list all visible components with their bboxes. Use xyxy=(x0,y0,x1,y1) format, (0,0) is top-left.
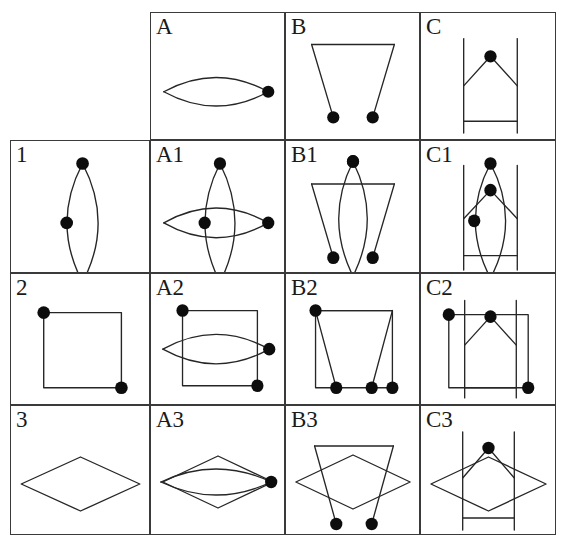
cell-label-A: A xyxy=(156,13,173,40)
trapezoid-right-foot-dot xyxy=(367,251,379,264)
lens-top-vertex-dot xyxy=(347,155,359,168)
square-outline xyxy=(183,311,258,386)
lens-vertical-right-arc xyxy=(220,164,235,272)
lens-horizontal-upper-arc xyxy=(164,208,268,223)
figure-group-1 xyxy=(60,157,98,272)
square-outline xyxy=(449,315,528,388)
figure-group-C xyxy=(464,39,518,134)
cell-label-2: 2 xyxy=(16,274,28,301)
lens-vertical-left-arc xyxy=(205,164,220,272)
cell-label-C1: C1 xyxy=(426,141,453,168)
matrix-cell-C: C xyxy=(420,12,556,140)
rails-apex-dot xyxy=(484,50,496,62)
figure-group-B2 xyxy=(309,304,398,394)
rails-apex-dot xyxy=(484,184,496,197)
lens-right-vertex-dot xyxy=(265,476,277,488)
lens-vertical-right-arc xyxy=(353,161,367,272)
trapezoid-left-foot-dot xyxy=(330,518,342,530)
lens-right-vertex-dot xyxy=(262,217,274,230)
figure-group-A1 xyxy=(164,157,275,272)
matrix-cell-C3: C3 xyxy=(420,405,556,535)
figure-group-B3 xyxy=(296,446,410,530)
lens-top-vertex-dot xyxy=(347,155,359,168)
lens-vertical-left-arc xyxy=(67,164,83,272)
matrix-cell-A3: A3 xyxy=(150,405,285,535)
matrix-cell-B1: B1 xyxy=(285,140,420,273)
trapezoid-right-leg xyxy=(372,446,394,524)
square-bottom-right-dot xyxy=(386,381,398,394)
trapezoid-left-leg xyxy=(315,446,337,524)
matrix-cell-2: 2 xyxy=(10,273,150,405)
matrix-cell-3: 3 xyxy=(10,405,150,535)
figure-group-B1 xyxy=(312,155,395,272)
lens-right-vertex-dot xyxy=(262,86,274,98)
trapezoid-right-foot-dot xyxy=(366,381,378,394)
trapezoid-left-foot-dot xyxy=(327,111,339,123)
trapezoid-right-leg xyxy=(372,311,393,388)
trapezoid-right-foot-dot xyxy=(366,518,378,530)
figure-group-A2 xyxy=(163,304,276,392)
lens-vertical-right-arc xyxy=(490,164,505,272)
square-top-left-dot xyxy=(309,304,321,317)
matrix-diagram: ABC1A1B1C12A2B2C23A3B3C3 xyxy=(0,0,571,541)
lens-horizontal-lower-arc xyxy=(164,223,268,238)
square-bottom-right-dot xyxy=(522,381,534,394)
matrix-cell-B2: B2 xyxy=(285,273,420,405)
figure-group-A3 xyxy=(161,456,277,508)
cell-label-B3: B3 xyxy=(291,406,318,433)
trapezoid-right-leg xyxy=(373,184,395,258)
square-top-left-dot xyxy=(176,304,188,317)
trapezoid-left-leg xyxy=(316,311,337,388)
cell-label-B: B xyxy=(291,13,306,40)
lens-top-vertex-dot xyxy=(484,157,496,170)
figure-group-C1 xyxy=(464,157,518,272)
cell-label-C2: C2 xyxy=(426,274,453,301)
rails-apex-dot xyxy=(484,310,496,323)
matrix-cell-C2: C2 xyxy=(420,273,556,405)
lens-horizontal-lower-arc xyxy=(161,482,271,495)
rhombus-outline xyxy=(296,455,410,509)
matrix-cell-1: 1 xyxy=(10,140,150,273)
trapezoid-left-leg xyxy=(312,184,334,258)
cell-label-A3: A3 xyxy=(156,406,184,433)
cell-label-C: C xyxy=(426,13,441,40)
cell-label-A2: A2 xyxy=(156,274,184,301)
trapezoid-left-foot-dot xyxy=(330,381,342,394)
square-outline xyxy=(44,313,122,388)
lens-vertical-left-arc xyxy=(475,164,490,272)
cell-label-3: 3 xyxy=(16,406,28,433)
lens-left-arc-dot xyxy=(60,217,73,230)
matrix-cell-B: B xyxy=(285,12,420,140)
rhombus-outline xyxy=(163,456,273,508)
lens-right-vertex-dot xyxy=(263,343,275,356)
matrix-cell-B3: B3 xyxy=(285,405,420,535)
rails-peak-chevron xyxy=(465,317,517,345)
lens-horizontal-lower-arc xyxy=(164,92,268,106)
square-outline xyxy=(316,311,393,388)
lens-left-arc-dot xyxy=(468,214,480,227)
square-bottom-right-dot xyxy=(115,381,128,394)
matrix-cell-A1: A1 xyxy=(150,140,285,273)
trapezoid-right-leg xyxy=(373,45,395,118)
figure-group-C3 xyxy=(431,432,546,530)
cell-label-B2: B2 xyxy=(291,274,318,301)
figure-group-2 xyxy=(37,306,127,394)
trapezoid-right-foot-dot xyxy=(367,111,379,123)
rails-peak-chevron xyxy=(464,190,518,219)
trapezoid-left-foot-dot xyxy=(327,251,339,264)
cell-label-1: 1 xyxy=(16,141,28,168)
rails-peak-chevron xyxy=(464,56,518,86)
lens-horizontal-upper-arc xyxy=(164,77,268,91)
lens-left-arc-dot xyxy=(199,217,211,230)
rails-apex-dot xyxy=(482,442,494,454)
matrix-cell-C1: C1 xyxy=(420,140,556,273)
figure-group-B xyxy=(312,45,395,124)
matrix-cell-corner xyxy=(10,12,150,140)
cell-figure-2 xyxy=(11,274,149,404)
rhombus-outline xyxy=(21,457,140,511)
figure-group-C2 xyxy=(443,300,535,398)
lens-vertical-right-arc xyxy=(83,164,99,272)
matrix-cell-A: A xyxy=(150,12,285,140)
cell-label-C3: C3 xyxy=(426,406,453,433)
lens-horizontal-lower-arc xyxy=(163,349,269,364)
